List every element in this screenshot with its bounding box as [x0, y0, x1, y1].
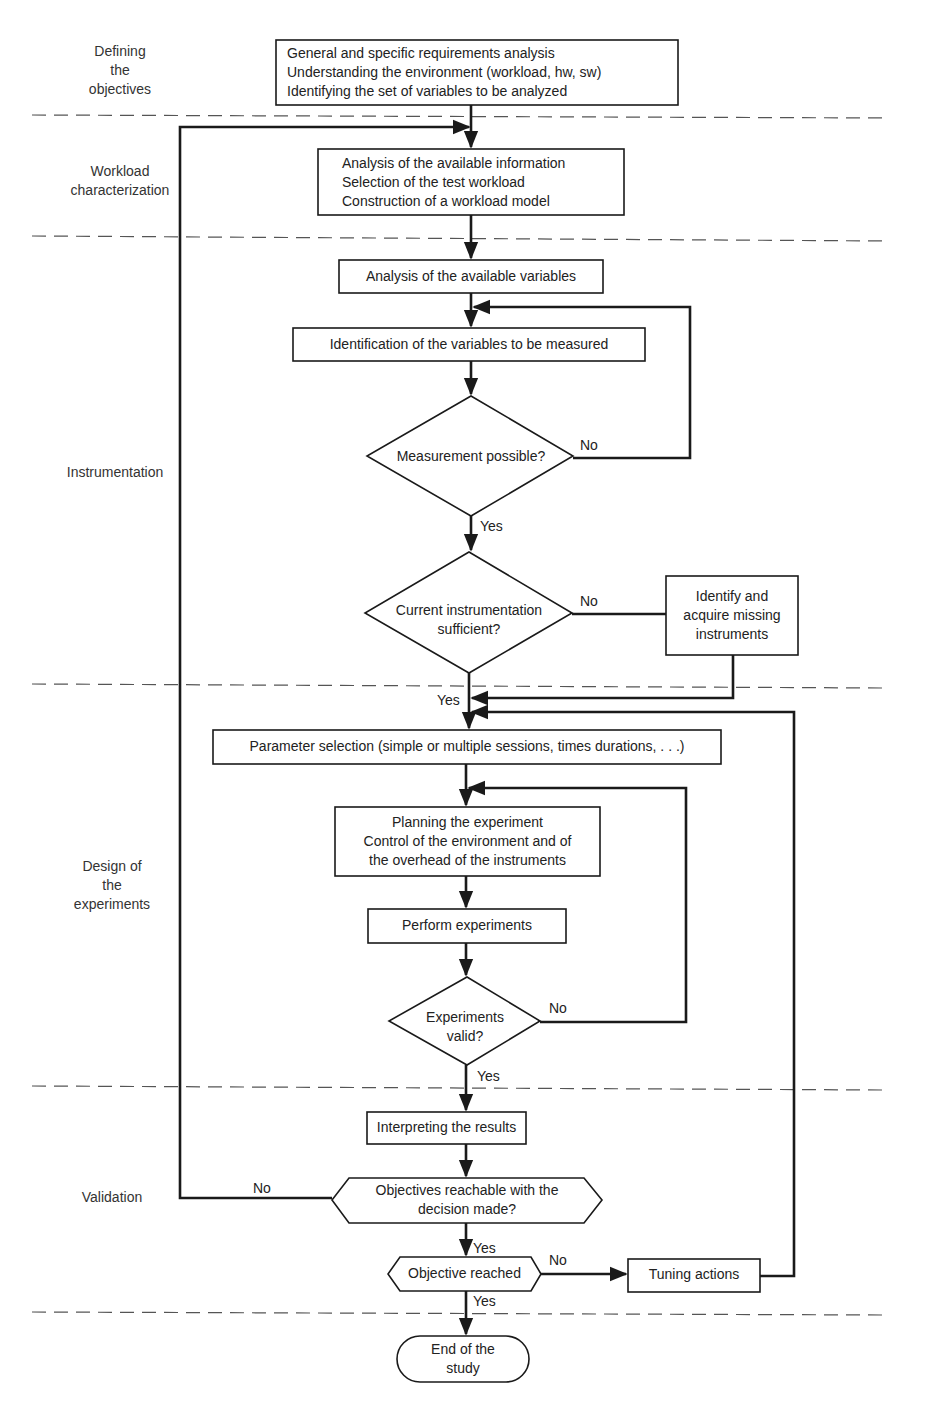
node-acquire-instruments: Identify and acquire missing instruments	[666, 587, 798, 644]
edge-label-measurement-no: No	[580, 437, 598, 453]
node-end: End of the study	[397, 1340, 529, 1378]
node-experiments-valid: Experiments valid?	[389, 1008, 541, 1046]
node-objective-reached: Objective reached	[388, 1264, 541, 1283]
edge-label-reached-yes: Yes	[473, 1293, 496, 1309]
edge-label-measurement-yes: Yes	[480, 518, 503, 534]
phase-label-workload: Workload characterization	[50, 162, 190, 200]
node-workload-model: Analysis of the available information Se…	[342, 154, 565, 211]
node-identify-vars: Identification of the variables to be me…	[293, 335, 645, 354]
edge-label-experiments-no: No	[549, 1000, 567, 1016]
edge-label-experiments-yes: Yes	[477, 1068, 500, 1084]
phase-label-validation: Validation	[62, 1188, 162, 1207]
node-requirements: General and specific requirements analys…	[287, 44, 601, 101]
node-perform: Perform experiments	[368, 916, 566, 935]
node-planning: Planning the experiment Control of the e…	[335, 813, 600, 870]
node-instrumentation-sufficient: Current instrumentation sufficient?	[365, 601, 573, 639]
edge-label-instrumentation-no: No	[580, 593, 598, 609]
edge-label-reachable-no: No	[253, 1180, 271, 1196]
node-objectives-reachable: Objectives reachable with the decision m…	[332, 1181, 602, 1219]
phase-label-instrumentation: Instrumentation	[45, 463, 185, 482]
phase-label-design: Design of the experiments	[62, 857, 162, 914]
edge-label-reached-no: No	[549, 1252, 567, 1268]
node-tuning: Tuning actions	[628, 1265, 760, 1284]
edge-label-instrumentation-yes: Yes	[437, 692, 460, 708]
node-interpreting: Interpreting the results	[367, 1118, 526, 1137]
node-measurement-possible: Measurement possible?	[367, 447, 575, 466]
phase-label-defining: Defining the objectives	[70, 42, 170, 99]
edge-label-reachable-yes: Yes	[473, 1240, 496, 1256]
node-parameter-selection: Parameter selection (simple or multiple …	[213, 737, 721, 756]
node-available-vars: Analysis of the available variables	[339, 267, 603, 286]
